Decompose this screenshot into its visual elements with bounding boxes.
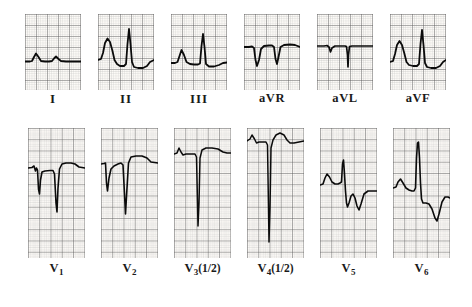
lead-label-V5: V5 <box>320 262 377 277</box>
ecg-panel-V1 <box>28 128 85 258</box>
ecg-panel-aVR <box>244 14 300 90</box>
lead-label-aVR: aVR <box>244 92 300 105</box>
ecg-strip-I <box>25 14 81 90</box>
lead-label-V2: V2 <box>101 262 158 277</box>
ecg-strip-III <box>171 14 227 90</box>
ecg-panel-III <box>171 14 227 90</box>
limb-leads-row: I <box>0 0 472 112</box>
lead-label-V1: V1 <box>28 262 85 277</box>
ecg-panel-V3 <box>174 128 231 258</box>
ecg-strip-aVL <box>317 14 373 90</box>
ecg-panel-V2 <box>101 128 158 258</box>
ecg-panel-V4 <box>247 128 304 258</box>
ecg-strip-aVF <box>390 14 446 90</box>
lead-label-I: I <box>25 92 81 105</box>
ecg-panel-aVL <box>317 14 373 90</box>
ecg-strip-V1 <box>28 128 85 258</box>
ecg-panel-aVF <box>390 14 446 90</box>
ecg-strip-V5 <box>320 128 377 258</box>
ecg-panel-V5 <box>320 128 377 258</box>
lead-label-V6: V6 <box>393 262 450 277</box>
lead-label-II: II <box>98 92 154 105</box>
ecg-strip-V6 <box>393 128 450 258</box>
ecg-strip-V3 <box>174 128 231 258</box>
ecg-figure: I <box>0 0 472 307</box>
ecg-strip-V2 <box>101 128 158 258</box>
lead-label-aVF: aVF <box>390 92 446 105</box>
chest-leads-row: V1 <box>0 112 472 307</box>
ecg-panel-V6 <box>393 128 450 258</box>
ecg-strip-V4 <box>247 128 304 258</box>
lead-label-III: III <box>171 92 227 105</box>
lead-label-V4: V4(1/2) <box>239 262 312 277</box>
ecg-strip-II <box>98 14 154 90</box>
ecg-panel-II <box>98 14 154 90</box>
lead-label-V3: V3(1/2) <box>166 262 239 277</box>
ecg-panel-I <box>25 14 81 90</box>
lead-label-aVL: aVL <box>317 92 373 105</box>
ecg-strip-aVR <box>244 14 300 90</box>
